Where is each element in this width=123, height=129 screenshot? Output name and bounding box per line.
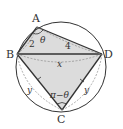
- point-label-d: D: [104, 48, 113, 61]
- angle-label-c: π−θ: [49, 90, 69, 100]
- edge-label-ad: 4: [65, 41, 71, 51]
- edge-label-bc: y: [26, 85, 33, 95]
- point-label-c: C: [57, 113, 65, 126]
- edge-label-bd: x: [57, 59, 62, 69]
- point-label-a: A: [31, 12, 41, 25]
- point-label-b: B: [6, 48, 14, 61]
- angle-label-a: θ: [40, 35, 46, 45]
- cyclic-quadrilateral-diagram: A B D C 2 4 x y y θ π−θ: [0, 0, 123, 129]
- edge-label-cd: y: [83, 85, 90, 95]
- edge-label-ab: 2: [29, 39, 35, 49]
